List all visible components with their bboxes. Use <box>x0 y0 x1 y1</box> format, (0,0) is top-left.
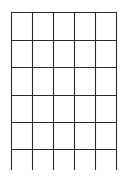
grid-diagram <box>0 0 134 181</box>
vertical-grid-lines <box>12 12 117 170</box>
horizontal-grid-lines <box>11 13 117 150</box>
